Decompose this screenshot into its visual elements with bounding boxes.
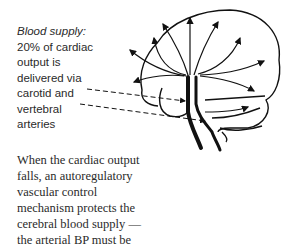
figure-caption: Blood supply: 20% of cardiac output is d…	[17, 24, 137, 133]
body-line: When the cardiac output	[17, 152, 167, 168]
caption-title: Blood supply:	[17, 24, 137, 40]
caption-line: 20% of cardiac	[17, 40, 137, 56]
caption-line: carotid and	[17, 86, 137, 102]
artery-vessels	[188, 77, 220, 150]
caption-line: vertebral	[17, 102, 137, 118]
caption-line: output is	[17, 55, 137, 71]
caption-line: arteries	[17, 117, 137, 133]
caption-line: delivered via	[17, 71, 137, 87]
body-line: cerebral blood supply —	[17, 216, 167, 232]
body-line: the arterial BP must be	[17, 232, 167, 247]
body-line: mechanism protects the	[17, 200, 167, 216]
body-line: falls, an autoregulatory	[17, 168, 167, 184]
body-line: vascular control	[17, 184, 167, 200]
body-paragraph: When the cardiac output falls, an autore…	[17, 152, 167, 247]
